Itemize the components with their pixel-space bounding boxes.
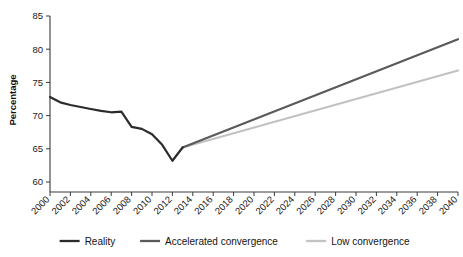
chart-legend: RealityAccelerated convergenceLow conver…	[60, 236, 410, 247]
y-axis-title: Percentage	[7, 74, 18, 125]
x-tick-label: 2036	[396, 194, 419, 217]
legend-label-0: Reality	[85, 236, 116, 247]
x-tick-label: 2000	[29, 194, 52, 217]
data-series-group	[50, 39, 458, 161]
x-tick-label: 2038	[416, 194, 439, 217]
x-tick-label: 2002	[49, 194, 72, 217]
series-line-reality	[50, 97, 183, 161]
x-tick-label: 2022	[253, 194, 276, 217]
x-tick-label: 2008	[110, 194, 133, 217]
legend-label-1: Accelerated convergence	[165, 236, 278, 247]
x-tick-label: 2004	[69, 194, 92, 217]
x-tick-label: 2018	[212, 194, 235, 217]
x-axis: 2000200220042006200820102012201420162018…	[29, 192, 460, 216]
x-tick-label: 2010	[131, 194, 154, 217]
y-tick-label: 70	[32, 110, 43, 121]
y-tick-label: 80	[32, 44, 43, 55]
x-tick-label: 2026	[294, 194, 317, 217]
x-tick-label: 2024	[273, 194, 296, 217]
series-line-low-convergence	[183, 70, 458, 147]
y-tick-label: 85	[32, 10, 43, 21]
x-tick-label: 2020	[233, 194, 256, 217]
x-tick-label: 2034	[375, 194, 398, 217]
x-tick-label: 2012	[151, 194, 174, 217]
y-tick-label: 75	[32, 77, 43, 88]
y-tick-label: 65	[32, 143, 43, 154]
x-tick-label: 2006	[90, 194, 113, 217]
chart-container: 606570758085 200020022004200620082010201…	[0, 0, 463, 257]
x-tick-label: 2028	[314, 194, 337, 217]
x-tick-label: 2016	[192, 194, 215, 217]
x-tick-label: 2014	[171, 194, 194, 217]
legend-label-2: Low convergence	[331, 236, 410, 247]
y-axis-title-text: Percentage	[7, 74, 18, 125]
x-tick-label: 2032	[355, 194, 378, 217]
x-tick-label: 2030	[335, 194, 358, 217]
y-axis: 606570758085	[32, 10, 50, 192]
x-tick-label: 2040	[437, 194, 460, 217]
line-chart: 606570758085 200020022004200620082010201…	[0, 0, 463, 257]
series-line-accelerated-convergence	[183, 39, 458, 147]
y-tick-label: 60	[32, 176, 43, 187]
